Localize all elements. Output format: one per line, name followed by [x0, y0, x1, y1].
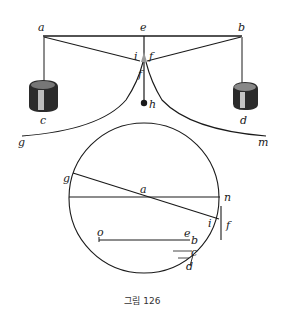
- figure-caption: 그림 126: [0, 294, 285, 307]
- label-f-lower: f: [225, 219, 232, 232]
- label-e-lower: e: [184, 227, 191, 240]
- line-g-i: [73, 173, 219, 219]
- weight-c: [29, 80, 58, 112]
- label-a: a: [38, 21, 45, 34]
- label-n: n: [224, 191, 231, 204]
- label-f: f: [148, 50, 155, 63]
- label-g: g: [18, 136, 25, 149]
- label-o: o: [97, 226, 104, 239]
- label-m: m: [258, 136, 268, 149]
- diagram: a e b i f f h c d g m g a n i f o e b c …: [0, 0, 285, 317]
- label-d-lower: d: [186, 260, 193, 273]
- label-c-lower: c: [191, 246, 197, 259]
- upper-figure: a e b i f f h c d g m: [18, 21, 268, 149]
- label-a-lower: a: [140, 183, 147, 196]
- label-h: h: [149, 98, 156, 111]
- label-g-lower: g: [63, 172, 70, 185]
- plumb-bob-h: [141, 100, 147, 106]
- cusp-shade: [141, 52, 147, 62]
- label-f-small: f: [137, 68, 144, 81]
- lower-figure: g a n i f o e b c d: [63, 123, 232, 273]
- label-d: d: [240, 114, 247, 127]
- label-c: c: [40, 114, 46, 127]
- label-b: b: [238, 21, 245, 34]
- weight-d: [233, 82, 258, 110]
- label-i-lower: i: [208, 217, 212, 230]
- string-a-i: [44, 37, 140, 61]
- label-i: i: [134, 50, 138, 63]
- label-e: e: [140, 21, 147, 34]
- string-b-f: [147, 37, 241, 61]
